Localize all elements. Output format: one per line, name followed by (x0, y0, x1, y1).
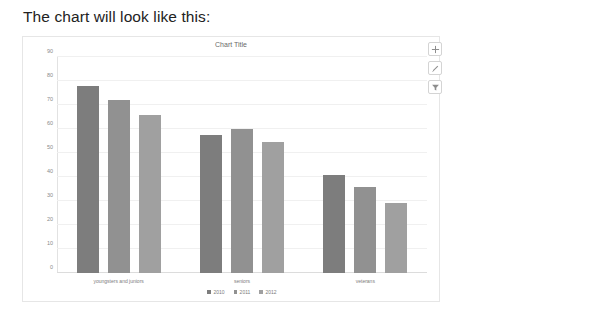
legend-item[interactable]: 2011 (234, 289, 251, 295)
x-axis-category-label: youngsters and juniors (57, 278, 180, 284)
legend-item[interactable]: 2010 (207, 289, 224, 295)
chart-title: Chart Title (23, 41, 439, 48)
legend-label: 2012 (265, 289, 276, 295)
page-heading: The chart will look like this: (23, 8, 210, 26)
add-button[interactable] (428, 42, 442, 56)
bar[interactable] (323, 175, 345, 273)
legend-label: 2011 (240, 289, 251, 295)
bar[interactable] (139, 115, 161, 273)
legend-swatch (234, 290, 238, 294)
y-axis-tick-label: 90 (47, 48, 53, 54)
edit-button[interactable] (428, 61, 442, 75)
bar[interactable] (354, 187, 376, 273)
y-axis-tick-label: 40 (47, 168, 53, 174)
edit-pencil-icon (431, 64, 440, 73)
plot-area: 0102030405060708090 youngsters and junio… (57, 57, 427, 273)
y-axis-tick-label: 0 (50, 264, 53, 270)
x-axis-category-label: veterans (304, 278, 427, 284)
legend-item[interactable]: 2012 (259, 289, 276, 295)
y-axis-tick-label: 60 (47, 120, 53, 126)
y-axis-tick-label: 50 (47, 144, 53, 150)
bar-group: veterans (304, 57, 427, 273)
bar-groups: youngsters and juniorsseniorsveterans (57, 57, 427, 273)
chart-panel: Chart Title (22, 36, 440, 302)
add-icon (431, 45, 440, 54)
bar-group: seniors (180, 57, 303, 273)
x-axis-category-label: seniors (180, 278, 303, 284)
filter-funnel-icon (431, 83, 440, 92)
bar[interactable] (262, 142, 284, 273)
bar[interactable] (108, 100, 130, 273)
chart-legend: 201020112012 (57, 289, 427, 295)
legend-label: 2010 (213, 289, 224, 295)
y-axis-tick-label: 70 (47, 96, 53, 102)
bar[interactable] (231, 129, 253, 273)
legend-swatch (259, 290, 263, 294)
y-axis-tick-label: 20 (47, 216, 53, 222)
bar[interactable] (385, 203, 407, 273)
legend-swatch (207, 290, 211, 294)
y-axis-tick-label: 80 (47, 72, 53, 78)
y-axis-tick-label: 10 (47, 240, 53, 246)
bar[interactable] (200, 135, 222, 273)
y-axis-tick-label: 30 (47, 192, 53, 198)
filter-button[interactable] (428, 80, 442, 94)
bar[interactable] (77, 86, 99, 273)
chart-toolbar (428, 42, 442, 94)
bar-group: youngsters and juniors (57, 57, 180, 273)
